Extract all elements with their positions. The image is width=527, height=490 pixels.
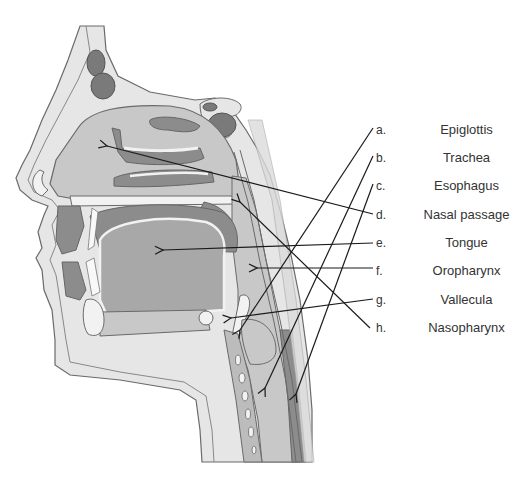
label-term-trachea: Trachea [406,149,527,167]
label-letter: f. [376,262,383,280]
label-term-esophagus: Esophagus [406,177,527,195]
label-term-nasopharynx: Nasopharynx [406,319,527,337]
label-f: f. Oropharynx [0,262,527,280]
label-letter: c. [376,177,385,195]
label-letter: e. [376,234,386,252]
frontal-sinus-lower [91,73,115,99]
label-c: c. Esophagus [0,177,527,195]
label-letter: g. [376,291,386,309]
label-term-nasal-passage: Nasal passage [406,206,527,224]
label-term-oropharynx: Oropharynx [406,262,527,280]
label-term-epiglottis: Epiglottis [406,121,527,139]
frontal-sinus-upper [87,50,105,76]
label-d: d. Nasal passage [0,206,527,224]
label-term-vallecula: Vallecula [406,291,527,309]
label-g: g. Vallecula [0,291,527,309]
label-term-tongue: Tongue [406,234,527,252]
label-letter: a. [376,121,386,139]
sphenoid-sinus-small [203,103,217,111]
label-letter: d. [376,206,386,224]
label-e: e. Tongue [0,234,527,252]
label-b: b. Trachea [0,149,527,167]
label-h: h. Nasopharynx [0,319,527,337]
label-letter: h. [376,319,386,337]
label-letter: b. [376,149,386,167]
label-a: a. Epiglottis [0,121,527,139]
